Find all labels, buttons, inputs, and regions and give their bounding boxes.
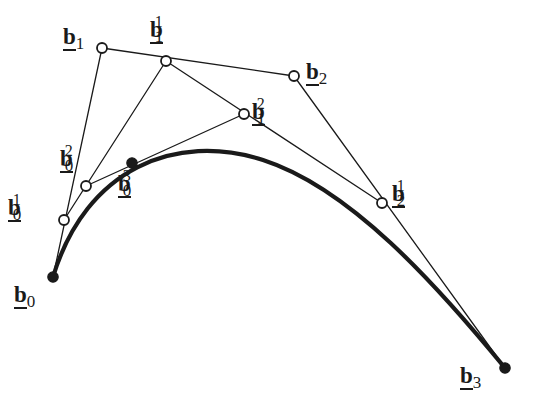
point-label-b03: b30 [118, 172, 139, 198]
point-label-b2: b2 [306, 60, 327, 86]
label-base-b0: b [14, 283, 27, 309]
point-label-b21: b12 [392, 182, 413, 208]
label-subscript-b02: 0 [65, 157, 74, 174]
label-subscript-b12: 1 [257, 110, 266, 127]
point-label-b12: b21 [252, 100, 273, 126]
point-marker-b02[interactable] [81, 181, 91, 191]
control-polygon-level0 [53, 48, 505, 368]
label-subscript-b03: 0 [123, 182, 132, 199]
point-marker-b01[interactable] [59, 215, 69, 225]
label-subscript-b11: 1 [155, 28, 164, 45]
bezier-diagram-svg [0, 0, 540, 407]
label-subscript-b01: 0 [13, 206, 22, 223]
point-marker-b11[interactable] [161, 56, 171, 66]
point-marker-b2[interactable] [289, 71, 299, 81]
point-marker-b21[interactable] [377, 198, 387, 208]
point-marker-b3[interactable] [500, 363, 510, 373]
label-subscript-b1: 1 [76, 35, 85, 52]
label-base-b3: b [460, 364, 473, 390]
point-label-b1: b1 [63, 25, 84, 51]
point-marker-b0[interactable] [48, 272, 58, 282]
label-base-b2: b [306, 60, 319, 86]
label-subscript-b2: 2 [319, 70, 328, 87]
figure-canvas: b0b10b20b30b1b11b21b2b12b3 [0, 0, 540, 407]
point-label-b3: b3 [460, 364, 481, 390]
label-subscript-b21: 2 [397, 192, 406, 209]
point-label-b0: b0 [14, 283, 35, 309]
label-base-b1: b [63, 25, 76, 51]
point-label-b02: b20 [60, 147, 81, 173]
label-subscript-b0: 0 [27, 293, 36, 310]
point-label-b01: b10 [8, 196, 29, 222]
label-subscript-b3: 3 [473, 374, 482, 391]
point-marker-b12[interactable] [239, 109, 249, 119]
point-marker-b1[interactable] [97, 43, 107, 53]
point-label-b11: b11 [150, 18, 171, 44]
